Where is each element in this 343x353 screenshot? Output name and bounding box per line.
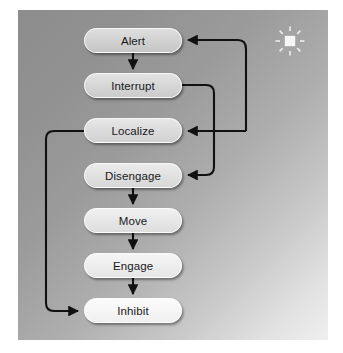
node-move[interactable]: Move	[84, 208, 182, 233]
edge-localize-inhibit	[46, 131, 84, 311]
node-disengage[interactable]: Disengage	[84, 163, 182, 188]
node-localize[interactable]: Localize	[84, 118, 182, 143]
node-alert[interactable]: Alert	[84, 28, 182, 53]
node-inhibit[interactable]: Inhibit	[84, 298, 182, 323]
node-engage[interactable]: Engage	[84, 253, 182, 278]
diagram-canvas: Alert Interrupt Localize Disengage Move …	[0, 0, 343, 353]
node-interrupt[interactable]: Interrupt	[84, 73, 182, 98]
sparkle-icon	[275, 26, 305, 56]
